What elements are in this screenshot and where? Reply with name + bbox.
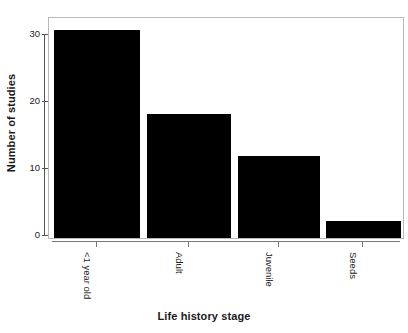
plot-area — [48, 17, 404, 239]
bar-lt-1-year-old[interactable] — [54, 30, 140, 238]
y-axis-title-label: Number of studies — [5, 73, 17, 171]
y-axis-title: Number of studies — [0, 0, 22, 245]
y-axis-label-30: 30 — [29, 29, 40, 39]
x-axis-title: Life history stage — [0, 310, 408, 322]
bar-chart-figure: Number of studies 30 20 10 0 <1 year old — [0, 0, 408, 333]
y-axis-label-10: 10 — [29, 163, 40, 173]
y-axis-label-20: 20 — [29, 96, 40, 106]
y-axis: 30 20 10 0 — [24, 14, 48, 240]
bar-seeds[interactable] — [326, 221, 401, 238]
x-axis-line — [52, 241, 400, 242]
y-axis-label-0: 0 — [35, 230, 40, 240]
x-axis-tick-juvenile — [278, 241, 279, 247]
x-axis-tick-lt-1-year-old — [96, 241, 97, 247]
x-axis-tick-seeds — [362, 241, 363, 247]
y-axis-line — [44, 34, 45, 235]
bar-juvenile[interactable] — [238, 156, 320, 238]
x-axis — [48, 241, 404, 251]
x-axis-tick-adult — [188, 241, 189, 247]
bar-adult[interactable] — [147, 114, 231, 238]
